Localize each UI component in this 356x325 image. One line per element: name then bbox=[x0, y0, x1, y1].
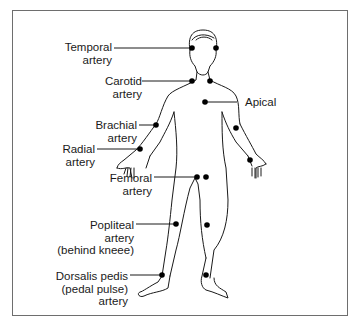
label-brachial: Brachial artery bbox=[80, 119, 137, 144]
label-carotid: Carotid artery bbox=[90, 75, 142, 100]
label-dorsalis-pedis: Dorsalis pedis (pedal pulse) artery bbox=[40, 270, 128, 308]
label-femoral: Femoral artery bbox=[100, 172, 152, 197]
label-apical: Apical bbox=[245, 96, 276, 109]
label-temporal: Temporal artery bbox=[60, 41, 112, 66]
label-popliteal: Popliteal artery (behind kneee) bbox=[50, 219, 134, 257]
label-radial: Radial artery bbox=[50, 143, 95, 168]
